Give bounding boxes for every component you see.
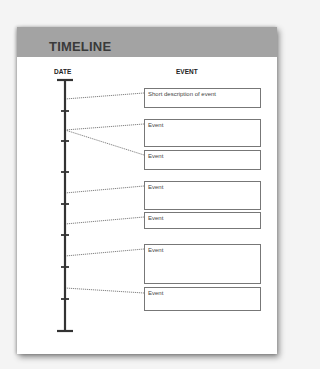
event-box[interactable]: Event <box>144 212 261 229</box>
event-label: Event <box>148 153 163 159</box>
event-label: Event <box>148 215 163 221</box>
connector-line <box>65 249 144 256</box>
connector-line <box>65 93 144 99</box>
event-label: Event <box>148 247 163 253</box>
event-box[interactable]: Event <box>144 119 261 147</box>
connector-line <box>65 124 144 130</box>
event-box[interactable]: Event <box>144 150 261 170</box>
event-box[interactable]: Short description of event <box>144 88 261 108</box>
event-label: Short description of event <box>148 91 216 97</box>
event-label: Event <box>148 184 163 190</box>
connector-line <box>65 130 144 155</box>
event-box[interactable]: Event <box>144 181 261 210</box>
connector-line <box>65 288 144 293</box>
event-box[interactable]: Event <box>144 244 261 284</box>
event-box[interactable]: Event <box>144 287 261 311</box>
connector-line <box>65 217 144 224</box>
connector-line <box>65 186 144 193</box>
event-label: Event <box>148 122 163 128</box>
event-label: Event <box>148 290 163 296</box>
